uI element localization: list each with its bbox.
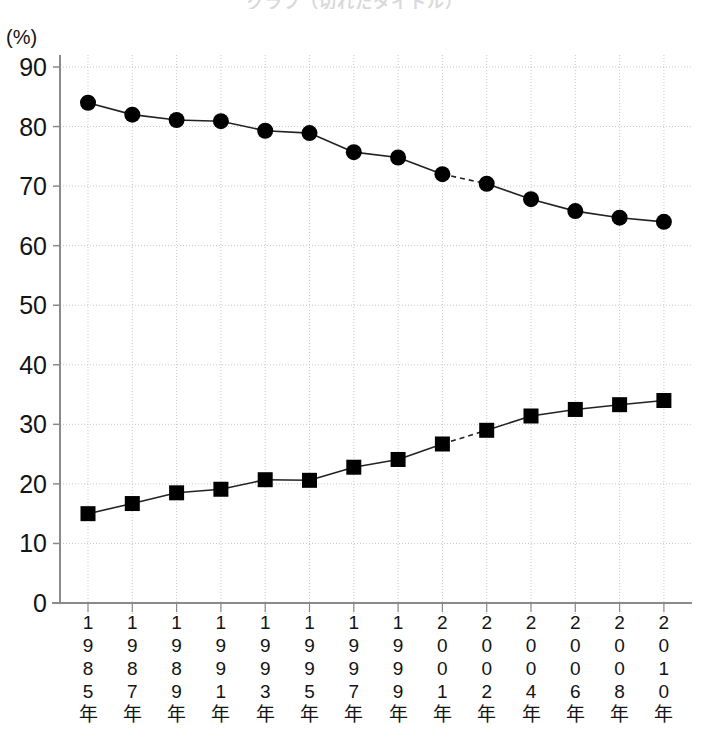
data-point-circle xyxy=(169,112,185,128)
axes xyxy=(52,55,692,612)
x-axis-tick-label-char: 年 xyxy=(71,703,105,726)
x-axis-tick-label: 1991年 xyxy=(204,611,238,726)
x-axis-tick-label: 1985年 xyxy=(71,611,105,726)
data-point-square xyxy=(125,496,140,511)
x-axis-tick-label-char: 7 xyxy=(115,680,149,703)
x-axis-tick-label: 2001年 xyxy=(425,611,459,726)
data-point-circle xyxy=(80,95,96,111)
x-axis-tick-label-char: 7 xyxy=(337,680,371,703)
y-axis-tick-label: 80 xyxy=(19,113,47,141)
x-axis-tick-label-char: 1 xyxy=(160,611,194,634)
x-axis-tick-label-char: 5 xyxy=(71,680,105,703)
y-axis-tick-label: 20 xyxy=(19,470,47,498)
data-point-circle xyxy=(124,107,140,123)
x-axis-tick-label-char: 1 xyxy=(204,680,238,703)
chart-container: グラフ（切れたタイトル） (%) 0102030405060708090 198… xyxy=(0,0,709,740)
x-axis-tick-label-char: 年 xyxy=(293,703,327,726)
x-axis-tick-label-char: 8 xyxy=(603,680,637,703)
x-axis-tick-label-char: 9 xyxy=(71,634,105,657)
x-axis-tick-label-char: 0 xyxy=(425,634,459,657)
y-axis-tick-label: 60 xyxy=(19,232,47,260)
x-axis-tick-label-char: 年 xyxy=(115,703,149,726)
x-axis-tick-label-char: 9 xyxy=(115,634,149,657)
x-axis-tick-label-char: 1 xyxy=(337,611,371,634)
x-axis-tick-label-char: 年 xyxy=(381,703,415,726)
y-axis-tick-label: 30 xyxy=(19,410,47,438)
x-axis-tick-label-char: 9 xyxy=(381,680,415,703)
x-axis-tick-label: 2010年 xyxy=(647,611,681,726)
x-axis-tick-label: 1987年 xyxy=(115,611,149,726)
data-point-circle xyxy=(656,214,672,230)
data-point-circle xyxy=(390,150,406,166)
x-axis-tick-label-char: 9 xyxy=(293,634,327,657)
data-point-square xyxy=(391,452,406,467)
x-axis-tick-label-char: 2 xyxy=(470,611,504,634)
x-axis-tick-label-char: 年 xyxy=(514,703,548,726)
x-axis-tick-label-char: 9 xyxy=(293,657,327,680)
x-axis-tick-label-char: 年 xyxy=(647,703,681,726)
x-axis-tick-label-char: 9 xyxy=(160,634,194,657)
x-axis-tick-label-char: 9 xyxy=(381,634,415,657)
series-markers xyxy=(80,95,672,521)
y-axis-tick-label: 50 xyxy=(19,291,47,319)
x-axis-tick-label-char: 5 xyxy=(293,680,327,703)
x-axis-tick-label-char: 1 xyxy=(293,611,327,634)
data-point-square xyxy=(656,393,671,408)
data-point-circle xyxy=(523,191,539,207)
data-point-square xyxy=(81,506,96,521)
x-axis-tick-label-char: 年 xyxy=(603,703,637,726)
x-axis-tick-label-char: 1 xyxy=(71,611,105,634)
x-axis-tick-label-char: 0 xyxy=(647,634,681,657)
x-axis-tick-label-char: 2 xyxy=(558,611,592,634)
data-point-circle xyxy=(257,123,273,139)
data-point-square xyxy=(258,472,273,487)
data-point-square xyxy=(435,436,450,451)
data-point-square xyxy=(302,473,317,488)
x-axis-tick-label-char: 0 xyxy=(514,657,548,680)
x-axis-tick-label-char: 3 xyxy=(248,680,282,703)
x-axis-tick-label-char: 1 xyxy=(115,611,149,634)
y-axis-tick-label: 90 xyxy=(19,53,47,81)
data-point-square xyxy=(524,408,539,423)
x-axis-tick-label-char: 2 xyxy=(603,611,637,634)
x-axis-tick-label: 1989年 xyxy=(160,611,194,726)
x-axis-tick-label-char: 9 xyxy=(204,657,238,680)
data-point-circle xyxy=(434,166,450,182)
x-axis-tick-label-char: 年 xyxy=(470,703,504,726)
x-axis-tick-label: 2008年 xyxy=(603,611,637,726)
data-point-square xyxy=(479,423,494,438)
x-axis-tick-label-char: 2 xyxy=(470,680,504,703)
x-axis-tick-label-char: 8 xyxy=(115,657,149,680)
y-axis-tick-label: 40 xyxy=(19,351,47,379)
x-axis-tick-label: 1993年 xyxy=(248,611,282,726)
data-point-circle xyxy=(567,203,583,219)
data-point-square xyxy=(213,482,228,497)
x-axis-tick-label-char: 9 xyxy=(248,657,282,680)
x-axis-tick-label-char: 2 xyxy=(647,611,681,634)
x-axis-tick-label: 2004年 xyxy=(514,611,548,726)
x-axis-tick-label-char: 0 xyxy=(514,634,548,657)
x-axis-tick-label-char: 2 xyxy=(514,611,548,634)
series-lines xyxy=(88,103,664,514)
x-axis-tick-label-char: 2 xyxy=(425,611,459,634)
x-axis-tick-label-char: 6 xyxy=(558,680,592,703)
x-axis-tick-label-char: 年 xyxy=(248,703,282,726)
x-axis-tick-label-char: 8 xyxy=(71,657,105,680)
x-axis-tick-label-char: 0 xyxy=(470,657,504,680)
x-axis-tick-label: 1997年 xyxy=(337,611,371,726)
x-axis-tick-label-char: 9 xyxy=(381,657,415,680)
x-axis-tick-label-char: 1 xyxy=(425,680,459,703)
y-axis-tick-labels: 0102030405060708090 xyxy=(19,53,47,617)
y-axis-tick-label: 70 xyxy=(19,172,47,200)
x-axis-tick-label-char: 0 xyxy=(425,657,459,680)
x-axis-tick-label-char: 8 xyxy=(160,657,194,680)
data-point-circle xyxy=(302,125,318,141)
x-axis-tick-label: 2002年 xyxy=(470,611,504,726)
x-axis-tick-label-char: 0 xyxy=(603,634,637,657)
x-axis-tick-label-char: 9 xyxy=(160,680,194,703)
x-axis-tick-label-char: 1 xyxy=(647,657,681,680)
x-axis-tick-label-char: 1 xyxy=(204,611,238,634)
x-axis-tick-label-char: 0 xyxy=(558,634,592,657)
data-point-square xyxy=(612,397,627,412)
x-axis-tick-label: 2006年 xyxy=(558,611,592,726)
